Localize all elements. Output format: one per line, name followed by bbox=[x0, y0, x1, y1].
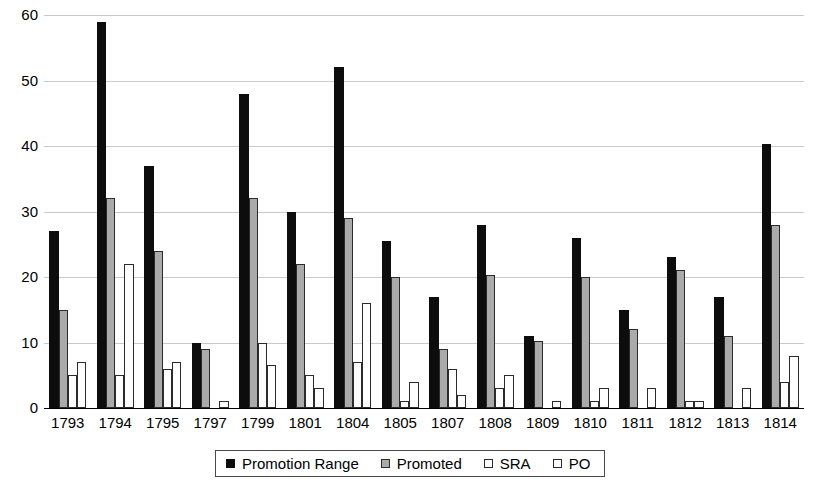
y-axis: 0102030405060 bbox=[0, 15, 38, 408]
legend-entry: Promoted bbox=[381, 456, 462, 471]
bar bbox=[144, 166, 153, 408]
bar bbox=[439, 349, 448, 408]
white-square-icon bbox=[553, 459, 562, 468]
bar bbox=[239, 94, 248, 408]
bar bbox=[219, 401, 228, 408]
y-axis-tick-label: 0 bbox=[2, 400, 38, 415]
x-axis-tick-label: 1813 bbox=[709, 412, 757, 434]
x-axis-tick-label: 1793 bbox=[44, 412, 92, 434]
bar bbox=[667, 257, 676, 408]
bar bbox=[115, 375, 124, 408]
legend-entry: PO bbox=[553, 456, 591, 471]
legend-label: SRA bbox=[500, 456, 531, 471]
bar-group bbox=[662, 15, 710, 408]
bar bbox=[296, 264, 305, 408]
x-axis-tick-label: 1804 bbox=[329, 412, 377, 434]
bar bbox=[524, 336, 533, 408]
x-axis-tick-label: 1809 bbox=[519, 412, 567, 434]
bar bbox=[581, 277, 590, 408]
bar bbox=[314, 388, 323, 408]
x-axis-tick-label: 1797 bbox=[187, 412, 235, 434]
white-square-icon bbox=[484, 459, 493, 468]
bar-group bbox=[614, 15, 662, 408]
bar bbox=[780, 382, 789, 408]
legend-label: Promoted bbox=[397, 456, 462, 471]
bar bbox=[267, 365, 276, 408]
bar bbox=[353, 362, 362, 408]
bar bbox=[192, 343, 201, 409]
bar bbox=[477, 225, 486, 408]
bar bbox=[457, 395, 466, 408]
legend: Promotion RangePromotedSRAPO bbox=[215, 450, 605, 477]
bar bbox=[362, 303, 371, 408]
bar bbox=[391, 277, 400, 408]
bar bbox=[258, 343, 267, 409]
bars-layer bbox=[44, 15, 804, 408]
x-axis-tick-label: 1801 bbox=[282, 412, 330, 434]
bar bbox=[77, 362, 86, 408]
bar bbox=[409, 382, 418, 408]
y-axis-tick-label: 30 bbox=[2, 204, 38, 219]
bar bbox=[429, 297, 438, 408]
bar-group bbox=[44, 15, 92, 408]
bar bbox=[68, 375, 77, 408]
black-square-icon bbox=[226, 459, 235, 468]
legend-entry: SRA bbox=[484, 456, 531, 471]
bar-group bbox=[139, 15, 187, 408]
bar bbox=[495, 388, 504, 408]
bar bbox=[590, 401, 599, 408]
bar bbox=[59, 310, 68, 408]
bar bbox=[572, 238, 581, 408]
bar bbox=[504, 375, 513, 408]
bar bbox=[647, 388, 656, 408]
x-axis-tick-label: 1811 bbox=[614, 412, 662, 434]
x-axis-tick-label: 1799 bbox=[234, 412, 282, 434]
x-axis-tick-label: 1805 bbox=[377, 412, 425, 434]
bar bbox=[124, 264, 133, 408]
bar bbox=[534, 341, 543, 408]
x-axis: 1793179417951797179918011804180518071808… bbox=[44, 412, 804, 438]
x-axis-tick-label: 1810 bbox=[567, 412, 615, 434]
x-axis-tick-label: 1794 bbox=[92, 412, 140, 434]
bar bbox=[694, 401, 703, 408]
bar bbox=[676, 270, 685, 408]
bar bbox=[154, 251, 163, 408]
bar bbox=[97, 22, 106, 408]
legend-label: Promotion Range bbox=[242, 456, 359, 471]
bar-group bbox=[709, 15, 757, 408]
y-axis-tick-label: 50 bbox=[2, 73, 38, 88]
bar bbox=[789, 356, 798, 408]
y-axis-tick-label: 40 bbox=[2, 138, 38, 153]
bar bbox=[552, 401, 561, 408]
bar bbox=[771, 225, 780, 408]
bar bbox=[163, 369, 172, 408]
x-axis-tick-label: 1814 bbox=[757, 412, 805, 434]
y-axis-tick-label: 20 bbox=[2, 269, 38, 284]
bar-group bbox=[519, 15, 567, 408]
bar-group bbox=[424, 15, 472, 408]
gray-square-icon bbox=[381, 459, 390, 468]
bar-group bbox=[377, 15, 425, 408]
bar bbox=[201, 349, 210, 408]
plot-area bbox=[44, 15, 804, 408]
y-axis-tick-label: 10 bbox=[2, 335, 38, 350]
bar bbox=[448, 369, 457, 408]
bar bbox=[619, 310, 628, 408]
bar bbox=[724, 336, 733, 408]
bar-group bbox=[472, 15, 520, 408]
x-axis-tick-label: 1795 bbox=[139, 412, 187, 434]
bar bbox=[762, 144, 771, 408]
bar bbox=[714, 297, 723, 408]
bar bbox=[287, 212, 296, 409]
legend-label: PO bbox=[569, 456, 591, 471]
bar bbox=[249, 198, 258, 408]
bar bbox=[685, 401, 694, 408]
bar bbox=[400, 401, 409, 408]
bar bbox=[629, 329, 638, 408]
bar bbox=[599, 388, 608, 408]
bar bbox=[334, 67, 343, 408]
bar bbox=[172, 362, 181, 408]
legend-entry: Promotion Range bbox=[226, 456, 359, 471]
y-axis-tick-label: 60 bbox=[2, 7, 38, 22]
bar bbox=[742, 388, 751, 408]
